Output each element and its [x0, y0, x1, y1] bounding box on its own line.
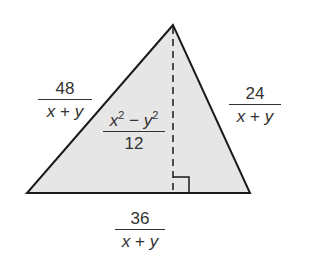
base-denominator: x + y [115, 230, 165, 250]
left-side-numerator: 48 [38, 80, 92, 99]
base-numerator: 36 [115, 210, 165, 229]
right-side-denominator: x + y [229, 105, 281, 125]
left-side-denominator: x + y [38, 100, 92, 120]
left-side-label: 48 x + y [38, 80, 92, 120]
right-side-label: 24 x + y [229, 85, 281, 125]
area-denominator: 12 [103, 132, 165, 152]
base-label: 36 x + y [115, 210, 165, 250]
area-label: x2 − y2 12 [103, 112, 165, 152]
area-numerator: x2 − y2 [103, 112, 165, 131]
right-side-numerator: 24 [229, 85, 281, 104]
